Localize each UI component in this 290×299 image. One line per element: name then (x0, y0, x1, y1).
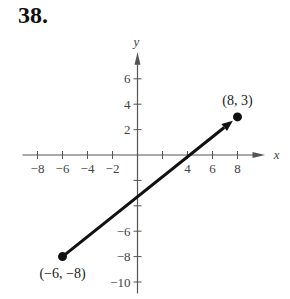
x-tick-label: 8 (234, 161, 241, 176)
y-tick-label: −10 (110, 275, 130, 290)
data-point (233, 112, 242, 121)
x-axis-label: x (273, 147, 280, 162)
x-axis-arrow-icon (253, 152, 266, 158)
x-tick-label: −2 (106, 161, 120, 176)
x-tick-label: 4 (184, 161, 191, 176)
data-point (58, 252, 67, 261)
y-tick-label: 4 (124, 97, 131, 112)
point-label-end: (8, 3) (222, 93, 253, 109)
y-tick-label: 2 (124, 122, 131, 137)
x-tick-label: −8 (31, 161, 45, 176)
directed-segment (63, 128, 225, 257)
y-tick-label: 6 (124, 71, 131, 86)
y-axis-label: y (132, 34, 140, 49)
x-tick-label: −4 (81, 161, 95, 176)
y-tick-label: −6 (117, 224, 131, 239)
x-tick-label: 6 (209, 161, 216, 176)
x-tick-label: −6 (56, 161, 70, 176)
y-tick-label: −8 (117, 249, 131, 264)
y-axis-arrow-icon (135, 52, 141, 65)
point-label-start: (−6, −8) (39, 266, 85, 282)
coordinate-plane: xy−8−6−4−2468642−6−8−10(8, 3)(−6, −8) (0, 0, 290, 299)
